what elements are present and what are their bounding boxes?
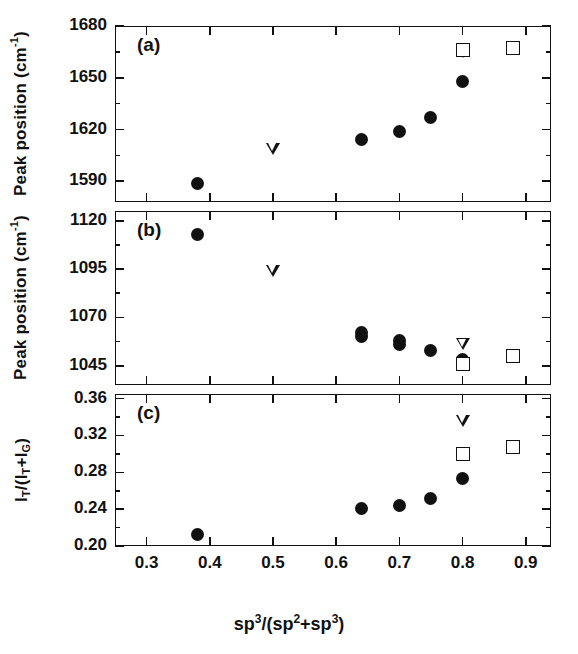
y-minor-tick-left [115,453,120,455]
y-minor-tick-left [115,341,120,343]
y-minor-tick-left [115,51,120,53]
y-tick-label: 1650 [19,67,107,87]
y-major-tick-right [542,317,551,319]
y-major-tick-left [115,398,124,400]
x-tick-top [146,394,148,403]
x-tick-label: 0.9 [496,553,556,573]
y-tick-label: 1120 [19,210,107,230]
y-major-tick-left [115,268,124,270]
y-major-tick-right [542,268,551,270]
x-tick-top [146,211,148,220]
x-tick-bottom [462,537,464,546]
y-major-tick-right [542,472,551,474]
x-tick-top [335,26,337,35]
data-point-triangle-inner [268,265,276,273]
y-major-tick-left [115,435,124,437]
x-tick-bottom [399,376,401,385]
x-tick-top [209,394,211,403]
x-tick-top [399,394,401,403]
data-point-circle [393,125,406,138]
data-point-circle [355,330,368,343]
y-tick-label: 1095 [19,258,107,278]
y-tick-label: 1070 [19,306,107,326]
x-axis-label: sp3/(sp2+sp3) [0,612,578,635]
y-major-tick-right [542,508,551,510]
y-minor-tick-right [546,490,551,492]
panel-label-1: (a) [137,34,160,56]
x-tick-top [462,26,464,35]
y-minor-tick-left [115,292,120,294]
y-minor-tick-left [115,416,120,418]
y-minor-tick-right [546,103,551,105]
x-tick-label: 0.4 [180,553,240,573]
data-point-square [506,440,520,454]
x-tick-bottom [335,193,337,202]
x-tick-bottom [209,537,211,546]
y-minor-tick-left [115,103,120,105]
y-major-tick-right [542,545,551,547]
y-tick-label: 1680 [19,15,107,35]
data-point-circle [393,338,406,351]
plot-frame-2 [115,211,551,385]
panel-label-2: (b) [137,219,161,241]
x-tick-top [525,394,527,403]
data-point-square [456,357,470,371]
x-tick-label: 0.5 [243,553,303,573]
y-major-tick-left [115,25,124,27]
data-point-square [506,41,520,55]
y-major-tick-left [115,129,124,131]
data-point-square [506,349,520,363]
y-axis-label-a: Peak position (cm-1) [8,26,31,202]
data-point-triangle-inner [268,143,276,151]
data-point-circle [191,528,204,541]
data-point-circle [456,75,469,88]
y-minor-tick-right [546,244,551,246]
x-tick-top [335,394,337,403]
data-point-circle [424,492,437,505]
x-tick-top [462,394,464,403]
x-tick-top [399,211,401,220]
y-major-tick-left [115,77,124,79]
y-major-tick-right [542,77,551,79]
y-minor-tick-right [546,416,551,418]
y-tick-label: 1620 [19,119,107,139]
data-point-triangle-inner [458,339,466,347]
y-major-tick-left [115,220,124,222]
x-tick-top [209,26,211,35]
y-major-tick-left [115,472,124,474]
x-tick-bottom [209,376,211,385]
y-major-tick-right [542,365,551,367]
y-minor-tick-right [546,453,551,455]
x-tick-top [399,26,401,35]
y-major-tick-right [542,25,551,27]
x-tick-label: 0.3 [117,553,177,573]
y-tick-label: 1045 [19,355,107,375]
y-minor-tick-right [546,292,551,294]
data-point-circle [393,499,406,512]
y-minor-tick-right [546,155,551,157]
x-tick-bottom [272,537,274,546]
y-axis-label-b: Peak position (cm-1) [8,211,31,385]
y-major-tick-left [115,317,124,319]
y-major-tick-left [115,508,124,510]
y-minor-tick-left [115,490,120,492]
y-minor-tick-left [115,155,120,157]
y-major-tick-right [542,220,551,222]
x-tick-bottom [335,376,337,385]
data-point-square [456,447,470,461]
x-tick-top [525,26,527,35]
x-tick-bottom [525,376,527,385]
y-major-tick-right [542,129,551,131]
y-minor-tick-right [546,341,551,343]
x-tick-bottom [146,537,148,546]
y-minor-tick-left [115,527,120,529]
x-tick-bottom [272,376,274,385]
x-tick-bottom [525,537,527,546]
x-tick-label: 0.8 [433,553,493,573]
x-tick-top [146,26,148,35]
x-tick-bottom [399,193,401,202]
x-tick-bottom [462,193,464,202]
y-major-tick-right [542,180,551,182]
plot-frame-3 [115,394,551,546]
x-tick-bottom [146,376,148,385]
